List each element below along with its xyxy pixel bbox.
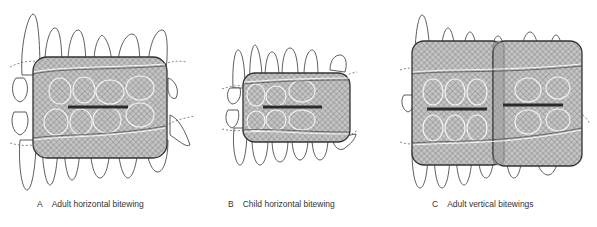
caption-b-letter: B [228, 199, 234, 209]
panel-b-child-horizontal [222, 45, 358, 165]
panel-a-adult-horizontal [10, 14, 195, 190]
caption-a-letter: A [37, 199, 43, 209]
film-c-left [412, 41, 504, 165]
caption-c: CAdult vertical bitewings [432, 199, 534, 209]
caption-b-label: Child horizontal bitewing [243, 199, 335, 209]
panel-c-adult-vertical [400, 15, 590, 188]
bitewing-diagram [0, 0, 597, 227]
caption-a-label: Adult horizontal bitewing [52, 199, 144, 209]
caption-b: BChild horizontal bitewing [228, 199, 335, 209]
caption-c-label: Adult vertical bitewings [447, 199, 533, 209]
film-overlap-c [493, 41, 504, 165]
caption-a: AAdult horizontal bitewing [37, 199, 144, 209]
caption-c-letter: C [432, 199, 438, 209]
